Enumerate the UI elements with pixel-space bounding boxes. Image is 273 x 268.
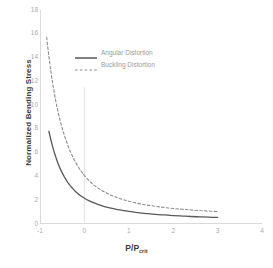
x-tick-label: 3 (208, 228, 228, 235)
x-axis-title: P/Pcrit (0, 243, 273, 253)
x-axis-title-main: P/P (125, 243, 139, 253)
x-tick-label: -1 (30, 228, 50, 235)
plot-area (40, 10, 262, 224)
chart-legend: Angular DistortionBuckling Distortion (74, 46, 194, 70)
legend-label: Angular Distortion (101, 49, 153, 56)
x-axis-title-subscript: crit (139, 248, 148, 254)
y-tick-label: 16 (14, 30, 38, 37)
x-tick-label: 1 (119, 228, 139, 235)
y-tick-label: 14 (14, 54, 38, 61)
y-tick-label: 12 (14, 78, 38, 85)
y-tick-label: 0 (14, 221, 38, 228)
x-axis-tick-labels: -101234 (0, 228, 273, 240)
legend-item[interactable]: Buckling Distortion (74, 58, 194, 70)
y-tick-label: 18 (14, 7, 38, 14)
x-tick-label: 2 (163, 228, 183, 235)
legend-solid-line-icon (74, 48, 98, 56)
y-tick-label: 2 (14, 197, 38, 204)
chart-container: Normalized Bending Stress 02468101214161… (0, 0, 273, 268)
plot-svg (40, 10, 262, 224)
y-tick-label: 4 (14, 173, 38, 180)
y-tick-label: 10 (14, 102, 38, 109)
axis-lines (40, 10, 262, 224)
legend-label: Buckling Distortion (101, 61, 155, 68)
x-tick-label: 0 (74, 228, 94, 235)
x-tick-label: 4 (252, 228, 272, 235)
legend-item[interactable]: Angular Distortion (74, 46, 194, 58)
legend-dashed-line-icon (74, 60, 98, 68)
y-tick-label: 8 (14, 125, 38, 132)
series-line (49, 131, 218, 217)
y-tick-label: 6 (14, 149, 38, 156)
